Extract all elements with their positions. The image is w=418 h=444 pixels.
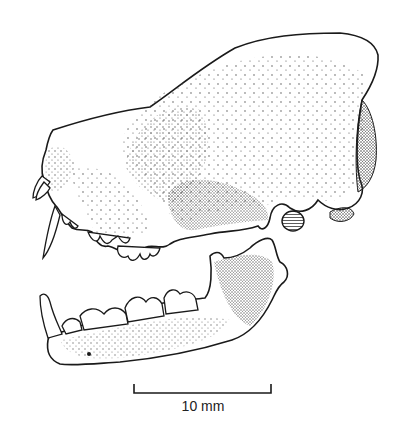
skull-illustration <box>0 0 418 444</box>
scale-bar-label: 10 mm <box>133 398 273 414</box>
cranium <box>42 33 378 255</box>
scale-bar <box>134 384 271 393</box>
auditory-meatus <box>282 208 354 231</box>
